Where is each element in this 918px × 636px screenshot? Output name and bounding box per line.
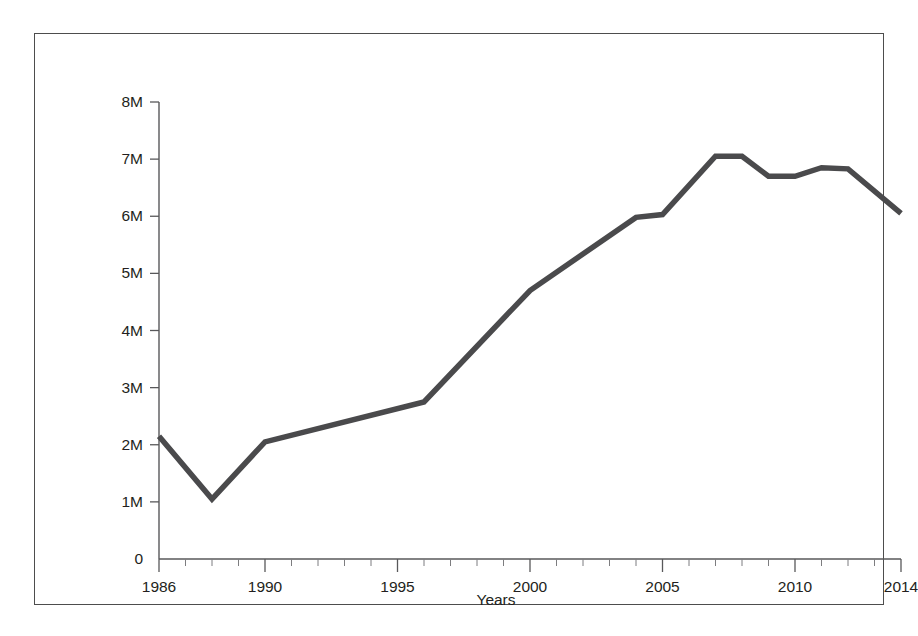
y-axis-label-0: 0 (134, 551, 143, 567)
x-axis-label-1995: 1995 (380, 579, 414, 595)
x-axis-label-2014: 2014 (884, 579, 918, 595)
y-axis-label-3M: 3M (121, 380, 143, 396)
x-axis-label-2005: 2005 (645, 579, 679, 595)
plot-area: 01M2M3M4M5M6M7M8M 1986199019952000200520… (159, 102, 901, 559)
x-axis-label-2000: 2000 (513, 579, 547, 595)
axes-group (159, 102, 901, 559)
y-axis-label-4M: 4M (121, 323, 143, 339)
data-line-series-1 (159, 156, 901, 499)
chart-svg (159, 102, 901, 559)
figure-frame: 01M2M3M4M5M6M7M8M 1986199019952000200520… (34, 33, 884, 605)
x-axis-label-1990: 1990 (248, 579, 282, 595)
x-axis-label-2010: 2010 (778, 579, 812, 595)
y-axis-label-8M: 8M (121, 94, 143, 110)
x-axis-title: Years (476, 591, 515, 609)
ticks-group (150, 102, 901, 572)
x-axis-label-1986: 1986 (142, 579, 176, 595)
y-axis-label-7M: 7M (121, 151, 143, 167)
y-axis-label-6M: 6M (121, 209, 143, 225)
y-axis-label-1M: 1M (121, 494, 143, 510)
y-axis-label-2M: 2M (121, 437, 143, 453)
y-axis-label-5M: 5M (121, 266, 143, 282)
